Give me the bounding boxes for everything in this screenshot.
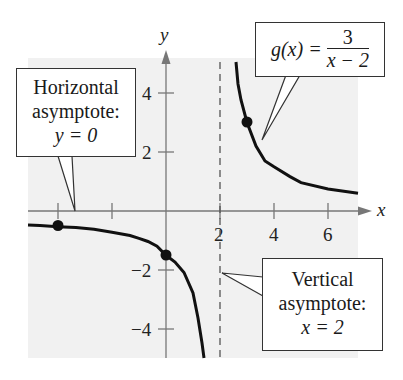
horizontal-callout-line3: y = 0 xyxy=(17,123,135,147)
vertical-asymptote-callout: Vertical asymptote: x = 2 xyxy=(262,258,383,351)
function-fraction: 3 x − 2 xyxy=(327,26,369,71)
y-tick-label-neg4: −4 xyxy=(131,319,152,340)
horizontal-asymptote-callout: Horizontal asymptote: y = 0 xyxy=(16,68,136,157)
y-axis-label: y xyxy=(158,24,169,45)
y-axis-arrow-icon xyxy=(162,50,171,64)
x-tick-label-6: 6 xyxy=(323,224,333,245)
function-numerator: 3 xyxy=(327,26,369,49)
function-denominator: x − 2 xyxy=(327,49,369,71)
x-axis-label: x xyxy=(376,199,386,220)
x-tick-label-4: 4 xyxy=(269,224,279,245)
vertical-callout-line3: x = 2 xyxy=(263,315,382,339)
vertical-callout-line2: asymptote: xyxy=(263,291,382,315)
x-axis-arrow-icon xyxy=(358,207,372,216)
function-callout: g(x) = 3 x − 2 xyxy=(255,22,385,77)
point-0-neg1.5 xyxy=(161,250,172,261)
y-tick-label-2: 2 xyxy=(142,142,152,163)
y-tick-label-neg2: −2 xyxy=(131,260,151,281)
point-3-3 xyxy=(242,117,253,128)
point-neg4-neg0.5 xyxy=(53,220,64,231)
vertical-callout-line1: Vertical xyxy=(263,267,382,291)
horizontal-callout-line2: asymptote: xyxy=(17,99,135,123)
y-tick-label-4: 4 xyxy=(142,83,152,104)
horizontal-callout-line1: Horizontal xyxy=(17,75,135,99)
x-tick-label-2: 2 xyxy=(214,224,224,245)
function-lhs: g(x) = xyxy=(271,38,322,60)
